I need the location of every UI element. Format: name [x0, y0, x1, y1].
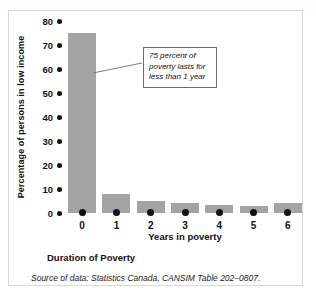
y-axis-tick-label: 60 [42, 64, 53, 75]
y-axis-title: Percentage of persons in low income [16, 24, 26, 210]
x-axis-tick-label: 3 [171, 220, 199, 231]
y-axis-tick: 20 [42, 159, 65, 171]
y-axis-tick-dot [57, 211, 62, 216]
annotation-line-3: less than 1 year [149, 72, 212, 83]
y-axis-tick: 0 [48, 207, 65, 219]
y-axis-tick-dot [57, 43, 62, 48]
x-axis-tick-dot [182, 209, 189, 216]
y-axis-tick-label: 10 [42, 184, 53, 195]
y-axis-tick: 50 [42, 87, 65, 99]
x-axis-tick-label: 4 [205, 220, 233, 231]
y-axis-tick: 10 [42, 183, 65, 195]
x-axis-tick-dot [250, 209, 257, 216]
scan-bleed-strip [0, 0, 316, 9]
x-axis-tick-dot [216, 209, 223, 216]
y-axis-tick-label: 80 [42, 16, 53, 27]
chart-panel: Percentage of persons in low income 0102… [8, 10, 303, 286]
figure-screenshot: Percentage of persons in low income 0102… [0, 0, 316, 296]
y-axis-tick-label: 20 [42, 160, 53, 171]
figure-source: Source of data: Statistics Canada, CANSI… [31, 273, 260, 283]
x-axis-tick-label: 1 [102, 220, 130, 231]
y-axis-tick: 70 [42, 39, 65, 51]
y-axis-tick-dot [57, 91, 62, 96]
y-axis-tick-label: 50 [42, 88, 53, 99]
x-axis-title: Years in poverty [65, 231, 305, 242]
y-axis-tick-dot [57, 163, 62, 168]
y-axis-tick-dot [57, 67, 62, 72]
y-axis-tick-label: 0 [48, 208, 53, 219]
x-axis-tick-label: 2 [137, 220, 165, 231]
y-axis-tick-dot [57, 187, 62, 192]
y-axis-tick-dot [57, 139, 62, 144]
x-axis-tick-dot [79, 209, 86, 216]
x-axis-tick-label: 6 [274, 220, 302, 231]
x-axis-tick-dot [113, 209, 120, 216]
y-axis-tick-label: 30 [42, 136, 53, 147]
y-axis-tick-dot [57, 115, 62, 120]
x-axis-tick-label: 5 [240, 220, 268, 231]
y-axis-tick-dot [57, 19, 62, 24]
y-axis-tick: 40 [42, 111, 65, 123]
y-axis-tick: 60 [42, 63, 65, 75]
x-axis-tick-dot [284, 209, 291, 216]
figure-caption: Duration of Poverty [47, 252, 135, 263]
annotation-line-2: poverty lasts for [149, 62, 212, 73]
y-axis-tick: 80 [42, 15, 65, 27]
bar [68, 33, 96, 213]
x-axis-tick-dot [147, 209, 154, 216]
y-axis-tick-label: 40 [42, 112, 53, 123]
annotation-line-1: 75 percent of [149, 51, 212, 62]
y-axis-tick-label: 70 [42, 40, 53, 51]
x-axis-tick-label: 0 [68, 220, 96, 231]
annotation-callout: 75 percent of poverty lasts for less tha… [143, 47, 217, 88]
y-axis-tick: 30 [42, 135, 65, 147]
